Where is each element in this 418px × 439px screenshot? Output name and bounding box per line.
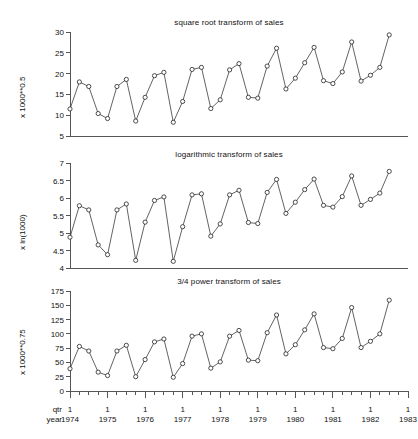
data-point: [246, 358, 250, 362]
data-point: [199, 192, 203, 196]
y-tick-label: 175: [18, 287, 64, 296]
data-point: [331, 81, 335, 85]
data-point: [143, 220, 147, 224]
data-point: [312, 312, 316, 316]
x-tick-label-year: 1979: [249, 415, 267, 424]
chart-title-text: logarithmic transform of sales: [135, 150, 282, 159]
x-tick-label-quarter: 1: [331, 405, 335, 414]
x-axis-row-name-qtr: qtr: [20, 405, 62, 414]
x-tick-label-year: 1975: [99, 415, 117, 424]
data-point: [143, 95, 147, 99]
data-point: [134, 119, 138, 123]
data-point: [171, 120, 175, 124]
data-point: [228, 334, 232, 338]
data-point: [96, 111, 100, 115]
data-point: [368, 73, 372, 77]
data-point: [265, 64, 269, 68]
data-point: [340, 336, 344, 340]
data-point: [115, 208, 119, 212]
data-point: [171, 375, 175, 379]
y-tick-label: 150: [18, 301, 64, 310]
data-point: [331, 347, 335, 351]
chart-title-text: 3/4 power transform of sales: [137, 277, 281, 286]
data-point: [293, 200, 297, 204]
data-point: [228, 68, 232, 72]
x-tick-label-quarter: 1: [406, 405, 410, 414]
data-point: [96, 243, 100, 247]
y-tick-label: 75: [18, 344, 64, 353]
data-point: [303, 328, 307, 332]
x-tick-label-year: 1977: [174, 415, 192, 424]
y-tick-label: 15: [18, 90, 64, 99]
y-tick-label: 30: [18, 28, 64, 37]
data-point: [387, 169, 391, 173]
data-point: [162, 70, 166, 74]
chart-title: square root transform of sales: [0, 18, 418, 27]
chart-panel: square root transform of salesx 1000**0.…: [0, 18, 418, 142]
data-point: [199, 332, 203, 336]
data-point: [190, 193, 194, 197]
x-tick-label-year: 1983: [399, 415, 417, 424]
data-point: [303, 61, 307, 65]
data-point: [284, 87, 288, 91]
series-line: [70, 171, 389, 261]
data-point: [284, 352, 288, 356]
data-point: [181, 361, 185, 365]
y-tick-label: 125: [18, 315, 64, 324]
data-point: [87, 84, 91, 88]
y-tick-label: 10: [18, 111, 64, 120]
y-tick-label: 50: [18, 358, 64, 367]
series-line: [70, 35, 389, 122]
data-point: [256, 96, 260, 100]
data-point: [77, 204, 81, 208]
data-point: [331, 205, 335, 209]
data-point: [303, 188, 307, 192]
data-point: [274, 177, 278, 181]
x-axis-row-name-year: year: [20, 415, 62, 424]
y-tick-label: 0: [18, 387, 64, 396]
x-tick-label-quarter: 1: [293, 405, 297, 414]
data-point: [171, 259, 175, 263]
x-tick-label-quarter: 1: [256, 405, 260, 414]
data-point: [87, 208, 91, 212]
chart-title-text: square root transform of sales: [134, 18, 283, 27]
data-point: [284, 211, 288, 215]
y-tick-label: 6: [18, 194, 64, 203]
data-point: [143, 357, 147, 361]
data-point: [274, 46, 278, 50]
data-point: [274, 313, 278, 317]
data-point: [293, 343, 297, 347]
y-tick-label: 7: [18, 159, 64, 168]
x-tick-label-quarter: 1: [218, 405, 222, 414]
x-tick-label-quarter: 1: [105, 405, 109, 414]
data-point: [321, 203, 325, 207]
data-point: [152, 340, 156, 344]
data-point: [181, 99, 185, 103]
x-tick-label-year: 1974: [61, 415, 79, 424]
data-point: [237, 62, 241, 66]
data-point: [209, 106, 213, 110]
data-point: [209, 366, 213, 370]
data-point: [68, 367, 72, 371]
data-point: [256, 359, 260, 363]
figure-canvas: square root transform of salesx 1000**0.…: [0, 0, 418, 439]
y-tick-label: 20: [18, 69, 64, 78]
data-point: [105, 253, 109, 257]
data-point: [87, 349, 91, 353]
data-point: [152, 74, 156, 78]
data-point: [265, 331, 269, 335]
x-tick-label-year: 1982: [362, 415, 380, 424]
x-tick-label-year: 1976: [136, 415, 154, 424]
data-point: [246, 220, 250, 224]
x-tick-label-year: 1980: [286, 415, 304, 424]
data-point: [68, 107, 72, 111]
data-point: [340, 70, 344, 74]
x-tick-label-quarter: 1: [143, 405, 147, 414]
y-tick-label: 25: [18, 372, 64, 381]
data-point: [162, 195, 166, 199]
x-tick-label-year: 1978: [211, 415, 229, 424]
data-point: [237, 328, 241, 332]
data-point: [350, 174, 354, 178]
data-point: [68, 235, 72, 239]
y-tick-label: 100: [18, 329, 64, 338]
